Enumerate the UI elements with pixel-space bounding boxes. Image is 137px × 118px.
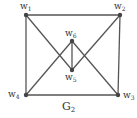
node-w4 — [24, 93, 28, 97]
edge-w3-w6 — [72, 41, 118, 95]
graph-title: G2 — [62, 101, 75, 112]
node-label-w6: w6 — [65, 29, 77, 38]
node-label-w1: w1 — [20, 2, 32, 11]
node-w1 — [24, 13, 28, 17]
node-label-w2: w2 — [114, 2, 126, 11]
node-label-w5: w5 — [65, 73, 77, 82]
node-w6 — [70, 39, 74, 43]
edge-w2-w5 — [72, 15, 120, 70]
edge-w1-w5 — [26, 15, 72, 70]
graph-title-sub: 2 — [71, 106, 75, 114]
graph-title-base: G — [62, 100, 71, 113]
node-w2 — [118, 13, 122, 17]
node-label-w4: w4 — [8, 90, 20, 99]
node-w3 — [116, 93, 120, 97]
edge-w4-w6 — [26, 41, 72, 95]
node-label-w3: w3 — [123, 91, 135, 100]
edge-w2-w3 — [118, 15, 120, 95]
